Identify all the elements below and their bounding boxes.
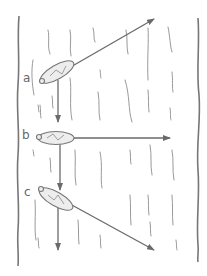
boat-c xyxy=(36,183,154,250)
river-crossing-diagram: a b c xyxy=(0,0,207,276)
right-riverbank xyxy=(197,18,199,262)
boat-bow-c xyxy=(39,187,44,192)
resultant-vector-a xyxy=(62,19,154,72)
label-b: b xyxy=(22,128,30,142)
boat-b xyxy=(37,132,171,191)
boat-bow-a xyxy=(40,79,45,84)
left-riverbank xyxy=(17,16,19,266)
label-c: c xyxy=(24,185,31,199)
label-a: a xyxy=(23,71,30,85)
boat-a xyxy=(37,19,154,122)
resultant-vector-c xyxy=(70,204,154,250)
boat-bow-b xyxy=(37,135,42,140)
